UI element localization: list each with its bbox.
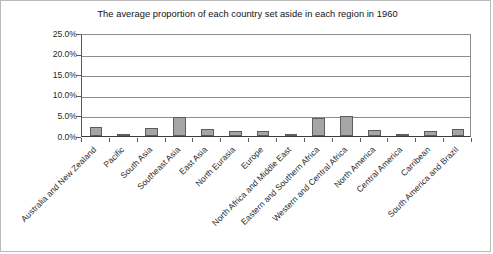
x-axis-tick-mark: [248, 138, 249, 142]
bar[interactable]: [368, 130, 381, 136]
bar[interactable]: [117, 134, 130, 136]
x-axis-tick-mark: [192, 138, 193, 142]
y-axis-tick-label: 10.0%: [3, 91, 77, 100]
y-axis-tick-label: 5.0%: [3, 112, 77, 121]
gridline: [82, 97, 470, 98]
chart-frame: The average proportion of each country s…: [0, 0, 491, 252]
bar[interactable]: [396, 134, 409, 136]
x-axis-tick-mark: [165, 138, 166, 142]
y-axis-tick-label: 25.0%: [3, 30, 77, 39]
bar[interactable]: [312, 118, 325, 136]
x-axis-tick-mark: [276, 138, 277, 142]
x-axis-tick-mark: [471, 138, 472, 142]
x-axis-tick-mark: [220, 138, 221, 142]
x-axis-tick-mark: [81, 138, 82, 142]
y-axis: 25.0%20.0%15.0%10.0%5.0%0.0%: [1, 1, 77, 254]
bar[interactable]: [452, 129, 465, 136]
x-axis-tick-mark: [332, 138, 333, 142]
gridline: [82, 76, 470, 77]
bar[interactable]: [285, 134, 298, 136]
bar[interactable]: [173, 117, 186, 136]
y-axis-tick-label: 0.0%: [3, 133, 77, 142]
gridline: [82, 117, 470, 118]
bar[interactable]: [145, 128, 158, 136]
x-axis-tick-mark: [443, 138, 444, 142]
x-axis-tick-mark: [137, 138, 138, 142]
bar[interactable]: [340, 116, 353, 136]
bar[interactable]: [257, 131, 270, 136]
x-axis-tick-mark: [304, 138, 305, 142]
gridline: [82, 56, 470, 57]
y-axis-tick-label: 20.0%: [3, 50, 77, 59]
y-axis-tick-label: 15.0%: [3, 71, 77, 80]
y-axis-tick-mark: [76, 137, 81, 138]
bar[interactable]: [229, 131, 242, 136]
bar[interactable]: [424, 131, 437, 136]
x-axis-tick-mark: [415, 138, 416, 142]
x-axis-tick-mark: [109, 138, 110, 142]
x-axis-tick-mark: [387, 138, 388, 142]
bar[interactable]: [201, 129, 214, 136]
bar[interactable]: [90, 127, 103, 136]
plot-area: [81, 34, 471, 137]
x-axis-tick-mark: [360, 138, 361, 142]
